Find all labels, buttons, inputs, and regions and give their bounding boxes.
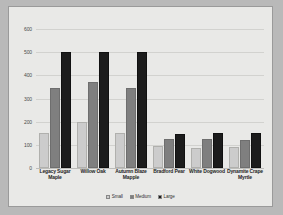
bar-large[interactable]	[99, 52, 109, 168]
bar-small[interactable]	[115, 133, 125, 168]
legend-item-medium[interactable]: Medium	[130, 194, 151, 199]
x-axis-category-label: Legacy Sugar Maple	[36, 168, 74, 186]
legend-swatch-icon	[158, 195, 162, 199]
y-axis: 0100200300400500600	[9, 29, 35, 168]
bar-medium[interactable]	[202, 139, 212, 168]
legend-label: Medium	[135, 194, 151, 199]
y-axis-tick-label: 100	[24, 142, 32, 148]
x-axis-category-label: Bradford Pear	[150, 168, 188, 186]
legend-item-large[interactable]: Large	[158, 194, 175, 199]
bar-group	[150, 29, 188, 168]
bar-medium[interactable]	[126, 88, 136, 168]
legend-swatch-icon	[130, 195, 134, 199]
bar-group	[226, 29, 264, 168]
bar-small[interactable]	[39, 133, 49, 168]
x-axis-category-label: Willow Oak	[74, 168, 112, 186]
bar-large[interactable]	[213, 133, 223, 168]
y-axis-tick-label: 0	[29, 165, 32, 171]
bar-group	[188, 29, 226, 168]
legend-item-small[interactable]: Small	[106, 194, 123, 199]
bars-layer	[36, 29, 264, 168]
x-axis-category-label: Dynamite Crape Myrtle	[226, 168, 264, 186]
bar-large[interactable]	[251, 133, 261, 168]
x-axis-category-label: White Dogwood	[188, 168, 226, 186]
bar-small[interactable]	[77, 122, 87, 168]
bar-large[interactable]	[137, 52, 147, 168]
y-axis-tick-label: 200	[24, 119, 32, 125]
bar-large[interactable]	[175, 134, 185, 168]
bar-small[interactable]	[191, 148, 201, 168]
bar-large[interactable]	[61, 52, 71, 168]
chart-legend: SmallMediumLarge	[9, 194, 272, 199]
y-axis-tick-label: 300	[24, 96, 32, 102]
legend-label: Small	[112, 194, 123, 199]
bar-medium[interactable]	[240, 140, 250, 168]
plot-area	[36, 29, 264, 168]
bar-medium[interactable]	[50, 88, 60, 168]
bar-small[interactable]	[153, 146, 163, 168]
legend-label: Large	[164, 194, 175, 199]
bar-chart-figure: 0100200300400500600 Legacy Sugar MapleWi…	[8, 6, 273, 207]
y-axis-tick-label: 500	[24, 49, 32, 55]
x-axis: Legacy Sugar MapleWillow OakAutumn Blaze…	[36, 168, 264, 186]
bar-medium[interactable]	[88, 82, 98, 168]
bar-group	[36, 29, 74, 168]
bar-medium[interactable]	[164, 139, 174, 168]
bar-group	[74, 29, 112, 168]
bar-group	[112, 29, 150, 168]
legend-swatch-icon	[106, 195, 110, 199]
y-axis-tick-label: 400	[24, 72, 32, 78]
bar-small[interactable]	[229, 147, 239, 168]
y-axis-tick-label: 600	[24, 26, 32, 32]
x-axis-category-label: Autumn Blaze Mapple	[112, 168, 150, 186]
